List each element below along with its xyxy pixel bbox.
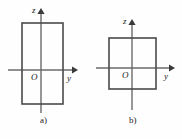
origin-label-b: O (122, 71, 129, 80)
z-axis-label-b: z (123, 17, 127, 26)
y-axis-label-b: y (164, 72, 168, 81)
y-axis-label-a: y (67, 74, 71, 83)
y-axis-arrowhead-b (169, 64, 175, 71)
y-axis-arrowhead-a (72, 66, 78, 73)
diagram-panel-a: z y O a) (0, 0, 91, 139)
z-axis-arrowhead-a (37, 8, 44, 14)
cross-section-rectangle-a (22, 23, 63, 104)
z-axis-label-a: z (32, 6, 36, 15)
figure-root: z y O a) z y O b) (0, 0, 182, 139)
z-axis-arrowhead-b (128, 19, 135, 25)
diagram-panel-b: z y O b) (91, 0, 182, 139)
panel-b-graphics (91, 0, 182, 139)
panel-caption-a: a) (40, 116, 47, 125)
panel-caption-b: b) (129, 116, 137, 125)
origin-label-a: O (31, 73, 38, 82)
